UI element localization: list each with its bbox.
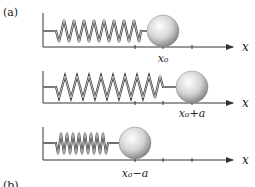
- axis-label: x: [242, 153, 249, 167]
- mass-ball: [119, 127, 151, 159]
- mass-ball: [176, 71, 208, 103]
- axis-label: x: [242, 96, 249, 110]
- ball-position-label: x₀−a: [122, 167, 148, 180]
- row-equilibrium: x₀ x: [43, 13, 249, 65]
- axis-label: x: [242, 40, 249, 54]
- row-compressed: x₀−a x: [43, 127, 249, 180]
- ball-position-label: x₀: [158, 52, 169, 65]
- ball-position-label: x₀+a: [179, 107, 205, 120]
- spring: [43, 133, 119, 154]
- row-stretched: x₀+a x: [43, 71, 249, 120]
- mass-ball: [147, 15, 179, 47]
- spring-mass-diagram: (a) (b) x₀: [0, 0, 255, 187]
